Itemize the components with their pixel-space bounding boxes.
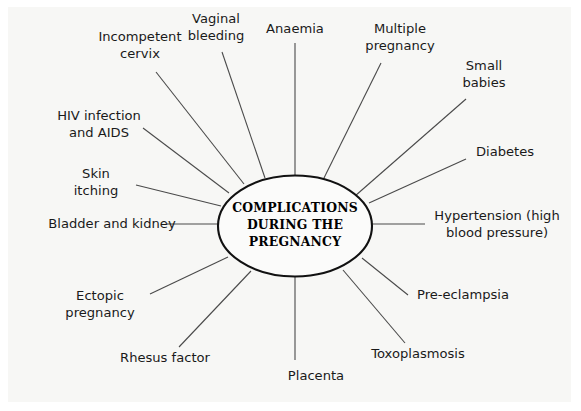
- node-label-pre-eclampsia-line-1: Pre-eclampsia: [417, 287, 509, 302]
- node-label-hypertension-line-1: Hypertension (high: [434, 208, 559, 223]
- spoke-line-vaginal-bleeding: [222, 52, 265, 178]
- node-label-skin-itching-line-2: itching: [74, 183, 119, 198]
- node-label-diabetes-line-1: Diabetes: [476, 144, 534, 159]
- node-ectopic-pregnancy[interactable]: Ectopicpregnancy: [65, 288, 135, 320]
- node-label-vaginal-bleeding-line-2: bleeding: [188, 28, 245, 43]
- node-diabetes[interactable]: Diabetes: [476, 144, 534, 159]
- center-hub-label: COMPLICATIONS DURING THE PREGNANCY: [232, 200, 358, 249]
- node-vaginal-bleeding[interactable]: Vaginalbleeding: [188, 11, 245, 43]
- node-label-multiple-pregnancy-line-2: pregnancy: [365, 38, 435, 53]
- spoke-line-toxoplasmosis: [343, 270, 405, 343]
- hub-line-2: DURING THE: [247, 217, 343, 232]
- spoke-line-incompetent-cervix: [156, 72, 244, 184]
- spoke-line-hiv-infection-and-aids: [143, 128, 229, 193]
- spoke-line-pre-eclampsia: [362, 258, 408, 295]
- node-label-rhesus-factor-line-1: Rhesus factor: [120, 350, 211, 365]
- hub-line-1: COMPLICATIONS: [232, 200, 358, 215]
- node-label-hiv-infection-and-aids-line-2: and AIDS: [69, 125, 129, 140]
- spoke-line-skin-itching: [136, 185, 221, 206]
- node-label-hypertension-line-2: blood pressure): [446, 225, 548, 240]
- node-label-skin-itching-line-1: Skin: [82, 166, 110, 181]
- node-label-small-babies-line-2: babies: [462, 75, 505, 90]
- node-label-bladder-and-kidney-line-1: Bladder and kidney: [48, 216, 176, 231]
- node-multiple-pregnancy[interactable]: Multiplepregnancy: [365, 21, 435, 53]
- spoke-line-small-babies: [355, 99, 466, 196]
- node-hiv-infection-and-aids[interactable]: HIV infectionand AIDS: [57, 108, 141, 140]
- node-label-placenta-line-1: Placenta: [288, 368, 344, 383]
- spoke-line-diabetes: [369, 159, 466, 203]
- node-placenta[interactable]: Placenta: [288, 368, 344, 383]
- node-label-incompetent-cervix-line-1: Incompetent: [98, 29, 181, 44]
- node-small-babies[interactable]: Smallbabies: [462, 58, 505, 90]
- node-label-small-babies-line-1: Small: [466, 58, 502, 73]
- node-label-incompetent-cervix-line-2: cervix: [120, 46, 160, 61]
- node-hypertension[interactable]: Hypertension (highblood pressure): [434, 208, 559, 240]
- node-label-ectopic-pregnancy-line-2: pregnancy: [65, 305, 135, 320]
- node-label-toxoplasmosis-line-1: Toxoplasmosis: [370, 346, 465, 361]
- node-incompetent-cervix[interactable]: Incompetentcervix: [98, 29, 181, 61]
- node-label-hiv-infection-and-aids-line-1: HIV infection: [57, 108, 141, 123]
- node-pre-eclampsia[interactable]: Pre-eclampsia: [417, 287, 509, 302]
- node-rhesus-factor[interactable]: Rhesus factor: [120, 350, 211, 365]
- node-label-multiple-pregnancy-line-1: Multiple: [374, 21, 426, 36]
- radial-diagram-canvas: COMPLICATIONS DURING THE PREGNANCY Anaem…: [0, 0, 581, 411]
- node-label-vaginal-bleeding-line-1: Vaginal: [192, 11, 240, 26]
- node-toxoplasmosis[interactable]: Toxoplasmosis: [370, 346, 465, 361]
- node-bladder-and-kidney[interactable]: Bladder and kidney: [48, 216, 176, 231]
- spoke-line-rhesus-factor: [179, 271, 251, 347]
- node-label-ectopic-pregnancy-line-1: Ectopic: [76, 288, 124, 303]
- node-skin-itching[interactable]: Skinitching: [74, 166, 119, 198]
- node-anaemia[interactable]: Anaemia: [266, 21, 324, 36]
- spoke-line-multiple-pregnancy: [322, 63, 381, 182]
- diagram-page: COMPLICATIONS DURING THE PREGNANCY Anaem…: [0, 0, 581, 411]
- node-label-anaemia-line-1: Anaemia: [266, 21, 324, 36]
- hub-line-3: PREGNANCY: [249, 234, 341, 249]
- spoke-line-ectopic-pregnancy: [150, 257, 228, 294]
